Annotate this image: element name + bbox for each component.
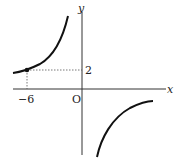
point-marker — [25, 68, 30, 73]
y-tick-label: 2 — [85, 64, 92, 77]
origin-label: O — [72, 93, 81, 106]
x-axis-label: x — [167, 83, 174, 96]
curve-right-branch — [97, 101, 153, 157]
x-tick-label: −6 — [18, 93, 34, 106]
y-axis-label: y — [77, 2, 85, 15]
hyperbola-graph: x y O −6 2 — [0, 0, 181, 168]
curve-left-branch — [13, 16, 68, 73]
